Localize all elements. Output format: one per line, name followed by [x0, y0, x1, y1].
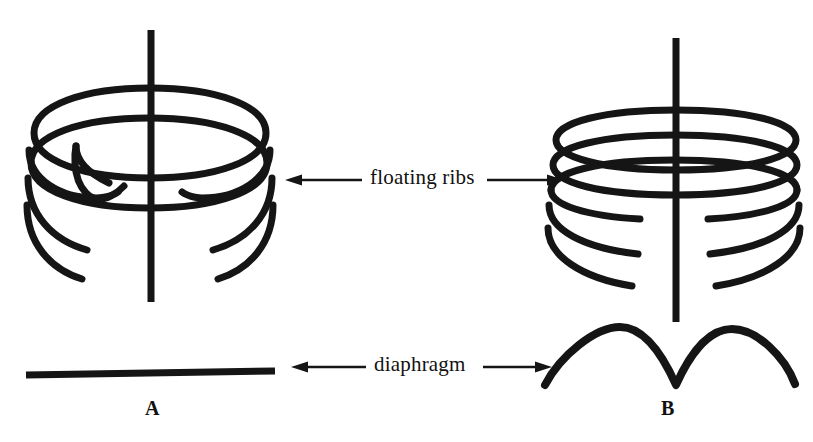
panel-b-caption: B: [661, 398, 674, 418]
panel-b-rib-5-left: [548, 228, 632, 286]
arrow-left-icon: [285, 175, 302, 186]
panel-b-rib-5-right: [716, 228, 800, 286]
panel-a-diaphragm: [26, 371, 275, 375]
anatomy-figure: floating ribs diaphragm A B: [0, 0, 813, 442]
panel-a-caption: A: [145, 398, 159, 418]
arrow-left-icon: [291, 362, 308, 373]
panel-a-group: [26, 30, 275, 375]
panel-b-group: [545, 38, 800, 385]
floating-ribs-label: floating ribs: [370, 167, 475, 188]
panel-b-diaphragm: [545, 327, 795, 385]
diaphragm-label: diaphragm: [374, 354, 466, 375]
